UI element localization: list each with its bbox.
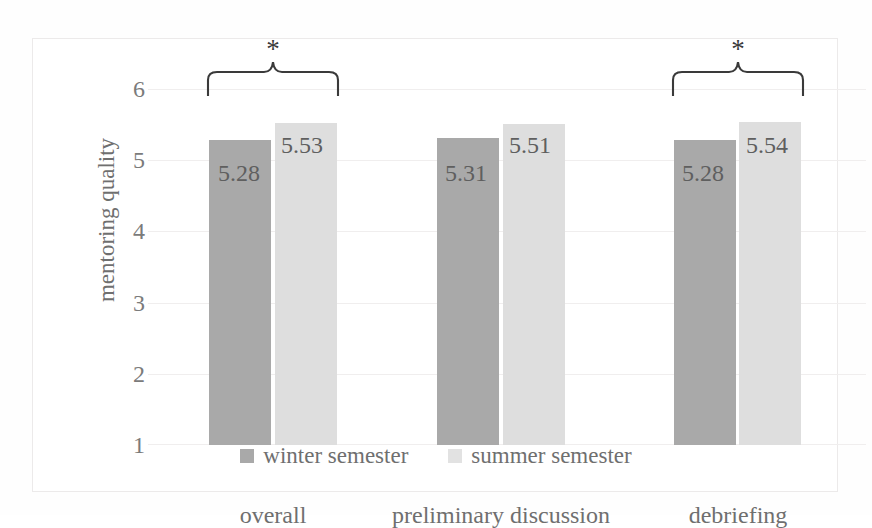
y-tick-5: 5 (105, 148, 145, 172)
significance-bracket-debriefing: * (671, 36, 805, 96)
bar-value-preliminary-discussion-summer: 5.51 (509, 133, 551, 157)
y-tick-6: 6 (105, 77, 145, 101)
bar-debriefing-winter[interactable] (674, 140, 736, 445)
curly-brace-icon (671, 60, 805, 96)
bar-value-overall-winter: 5.28 (218, 161, 260, 185)
x-category-label-overall: overall (173, 503, 373, 527)
bar-value-debriefing-summer: 5.54 (746, 133, 788, 157)
y-tick-2: 2 (105, 362, 145, 386)
chart-legend: winter semester summer semester (0, 444, 872, 467)
bar-debriefing-summer[interactable] (739, 122, 801, 445)
legend-item-summer-semester[interactable]: summer semester (448, 444, 631, 467)
legend-item-winter-semester[interactable]: winter semester (240, 444, 408, 467)
legend-label-summer-semester: summer semester (471, 444, 631, 467)
x-category-label-debriefing: debriefing (638, 503, 838, 527)
bar-overall-summer[interactable] (275, 123, 337, 446)
bar-value-preliminary-discussion-winter: 5.31 (445, 161, 487, 185)
legend-swatch-summer-icon (448, 449, 462, 463)
chart-frame: mentoring quality 6 5 4 3 2 1 5.28 5.5 (32, 38, 838, 492)
bar-overall-winter[interactable] (209, 140, 271, 445)
bar-value-debriefing-winter: 5.28 (682, 161, 724, 185)
significance-star-debriefing: * (671, 36, 805, 63)
plot-area: 5.28 5.53 5.31 5.51 5.28 5.54 * (148, 89, 866, 445)
bar-value-overall-summer: 5.53 (281, 133, 323, 157)
legend-swatch-winter-icon (240, 449, 254, 463)
bar-preliminary-discussion-summer[interactable] (503, 124, 565, 445)
y-axis-tick-labels: 6 5 4 3 2 1 (83, 89, 145, 445)
significance-bracket-overall: * (206, 36, 340, 96)
curly-brace-icon (206, 60, 340, 96)
y-tick-4: 4 (105, 219, 145, 243)
y-tick-3: 3 (105, 291, 145, 315)
significance-star-overall: * (206, 36, 340, 63)
x-category-label-preliminary-discussion: preliminary discussion (351, 503, 651, 527)
legend-label-winter-semester: winter semester (263, 444, 408, 467)
